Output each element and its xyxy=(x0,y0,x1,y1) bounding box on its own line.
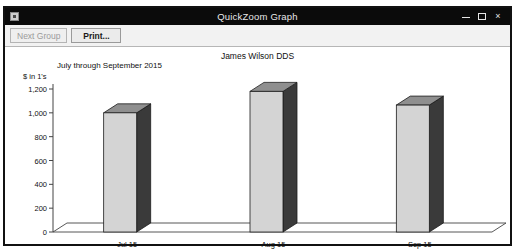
y-axis-tick-label: 1,200 xyxy=(13,85,47,94)
title-bar: QuickZoom Graph × xyxy=(5,8,510,25)
next-group-button[interactable]: Next Group xyxy=(10,28,67,43)
next-group-label: Next Group xyxy=(17,31,60,41)
plot-area: 02004006008001,0001,200Jul 15Aug 15Sep 1… xyxy=(5,47,510,244)
y-axis-tick-label: 800 xyxy=(13,132,47,141)
y-axis-tick-label: 400 xyxy=(13,180,47,189)
toolbar: Next Group Print... xyxy=(5,25,510,47)
y-axis-tick-label: 200 xyxy=(13,204,47,213)
maximize-icon[interactable] xyxy=(478,13,486,20)
x-axis-tick-label: Jul 15 xyxy=(117,240,137,249)
chart-container: James Wilson DDS July through September … xyxy=(5,47,510,244)
x-axis-tick-label: Sep 15 xyxy=(408,240,432,249)
close-icon[interactable]: × xyxy=(493,12,503,21)
bar-chart-svg xyxy=(5,47,510,248)
y-axis-tick-label: 1,000 xyxy=(13,108,47,117)
window-title: QuickZoom Graph xyxy=(5,8,510,25)
window-controls: × xyxy=(461,12,503,21)
x-axis-tick-label: Aug 15 xyxy=(262,240,286,249)
y-axis-tick-label: 600 xyxy=(13,156,47,165)
minimize-icon[interactable] xyxy=(461,12,471,21)
y-axis-tick-label: 0 xyxy=(13,228,47,237)
print-button[interactable]: Print... xyxy=(71,28,121,43)
print-label: Print... xyxy=(83,31,109,41)
application-window: QuickZoom Graph × Next Group Print... Ja… xyxy=(3,6,512,246)
